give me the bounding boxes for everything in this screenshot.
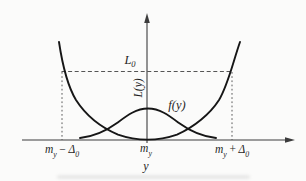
loss-curve: [59, 42, 240, 140]
loss-axis-label: L(y): [133, 78, 145, 97]
l0-sub: 0: [131, 59, 135, 69]
tick-center-m-sub: y: [148, 149, 151, 158]
scan-artifact-smudge: [57, 175, 250, 179]
tick-left-minus: −: [59, 143, 67, 155]
tick-label-lower-tolerance: my−Δ0: [45, 144, 79, 156]
tick-left-m-sub: y: [53, 150, 56, 159]
l0-base: L: [124, 53, 131, 67]
y-axis-arrow-icon: [144, 13, 150, 23]
tick-left-delta-sub: 0: [75, 150, 79, 159]
density-curve-label: f(y): [168, 99, 185, 112]
tick-right-delta-sub: 0: [245, 150, 249, 159]
l0-level-label: L0: [124, 54, 135, 67]
tick-right-plus: +: [229, 143, 237, 155]
tick-right-m-sub: y: [223, 150, 226, 159]
x-axis-label: y: [143, 160, 148, 172]
x-axis-arrow-icon: [285, 137, 295, 143]
loss-function-density-plot: L0 L(y) f(y) my−Δ0 my my+Δ0 y: [0, 0, 306, 181]
tick-label-upper-tolerance: my+Δ0: [215, 144, 249, 156]
tick-label-mean: my: [140, 143, 152, 155]
